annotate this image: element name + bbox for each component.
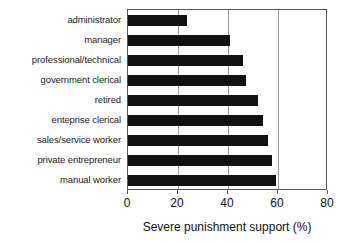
x-tick-label: 0 bbox=[107, 196, 147, 210]
x-tick-mark bbox=[127, 190, 128, 194]
category-label: enteprise clerical bbox=[52, 114, 121, 125]
x-tick-mark bbox=[227, 190, 228, 194]
x-axis: 020406080 bbox=[127, 190, 327, 220]
bar bbox=[128, 35, 230, 46]
category-label: retired bbox=[95, 94, 121, 105]
bar bbox=[128, 75, 246, 86]
category-label: sales/service worker bbox=[37, 134, 121, 145]
bar bbox=[128, 15, 187, 26]
x-tick-mark bbox=[177, 190, 178, 194]
x-tick-label: 80 bbox=[307, 196, 347, 210]
bar bbox=[128, 155, 272, 166]
x-tick-label: 60 bbox=[257, 196, 297, 210]
x-tick-mark bbox=[327, 190, 328, 194]
plot-area bbox=[127, 9, 327, 190]
x-tick-mark bbox=[277, 190, 278, 194]
category-label: professional/technical bbox=[32, 54, 121, 65]
category-label: government clerical bbox=[41, 74, 121, 85]
category-label: manual worker bbox=[60, 174, 121, 185]
category-label: manager bbox=[84, 34, 121, 45]
bar bbox=[128, 55, 243, 66]
x-tick-label: 20 bbox=[157, 196, 197, 210]
category-label: administrator bbox=[67, 14, 121, 25]
category-label: private entrepreneur bbox=[37, 154, 121, 165]
bar bbox=[128, 175, 276, 186]
x-tick-label: 40 bbox=[207, 196, 247, 210]
bar-chart: administratormanagerprofessional/technic… bbox=[0, 0, 354, 243]
category-axis: administratormanagerprofessional/technic… bbox=[0, 9, 124, 190]
bar bbox=[128, 95, 258, 106]
x-axis-title: Severe punishment support (%) bbox=[127, 219, 327, 235]
bars-layer bbox=[128, 10, 326, 189]
bar bbox=[128, 115, 263, 126]
bar bbox=[128, 135, 268, 146]
